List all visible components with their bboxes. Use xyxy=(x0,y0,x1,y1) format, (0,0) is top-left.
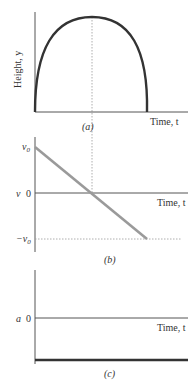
panel-caption: (c) xyxy=(104,368,116,380)
panel-c: a 0 Time, t (c) xyxy=(16,270,188,380)
height-curve xyxy=(35,17,147,112)
y-axis-label: Height, y xyxy=(12,51,23,88)
kinematics-diagram: Height, y Time, t (a) v0 v 0 −v0 Time, t… xyxy=(0,0,196,387)
x-axis-label: Time, t xyxy=(150,116,179,127)
tick-zero: 0 xyxy=(26,313,31,324)
tick-zero: 0 xyxy=(26,188,31,199)
x-axis-label: Time, t xyxy=(157,197,186,208)
x-axis-label: Time, t xyxy=(157,322,186,333)
panel-b: v0 v 0 −v0 Time, t (b) xyxy=(16,137,188,266)
y-axis-label: v xyxy=(16,188,21,199)
panel-caption: (b) xyxy=(104,254,116,266)
tick-v0: v0 xyxy=(22,141,30,154)
tick-neg-v0: −v0 xyxy=(16,233,31,246)
panel-a: Height, y Time, t (a) xyxy=(12,12,188,133)
y-axis-label: a xyxy=(16,313,21,324)
panel-caption: (a) xyxy=(82,121,94,133)
